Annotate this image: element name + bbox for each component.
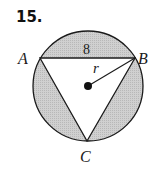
circle-triangle-diagram: A B C 8 r: [0, 0, 151, 174]
vertex-label-a: A: [17, 50, 28, 67]
radius-label: r: [93, 60, 99, 76]
side-length-label: 8: [83, 42, 90, 57]
center-point: [84, 82, 92, 90]
vertex-label-b: B: [138, 50, 148, 67]
vertex-label-c: C: [80, 148, 91, 165]
